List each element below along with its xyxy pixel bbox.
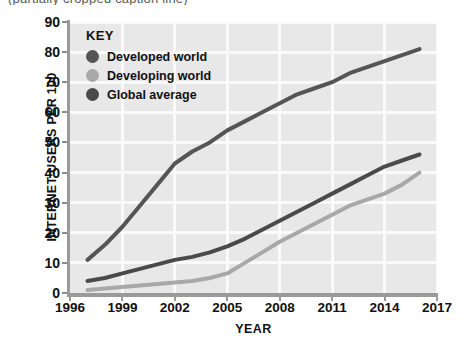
internet-users-line-chart: INTERNET USERS PER 100 01020304050607080… (0, 0, 467, 347)
legend-item-global-average: Global average (86, 85, 236, 104)
y-axis-tick-label: 90 (30, 14, 60, 30)
legend-swatch-icon (86, 69, 99, 82)
x-axis-tick-label: 2017 (422, 300, 452, 315)
y-axis-tick-label: 60 (30, 104, 60, 120)
y-axis-tick-label: 50 (30, 134, 60, 150)
series-line (87, 154, 419, 280)
legend-item-developed-world: Developed world (86, 47, 236, 66)
y-axis-tick-label: 20 (30, 225, 60, 241)
y-axis-tick-labels: 0102030405060708090 (30, 22, 60, 294)
x-axis-tick-label: 2014 (370, 300, 400, 315)
chart-legend: KEY Developed world Developing world Glo… (86, 28, 236, 104)
x-axis-tick-label: 1996 (55, 300, 85, 315)
legend-item-developing-world: Developing world (86, 66, 236, 85)
series-line (87, 173, 419, 290)
x-axis-tick-labels: 19961999200220052008201120142017 (0, 300, 467, 318)
y-axis-tick-label: 70 (30, 74, 60, 90)
x-axis-tick-label: 2002 (160, 300, 190, 315)
legend-label: Global average (107, 88, 197, 102)
y-axis-tick-label: 30 (30, 195, 60, 211)
legend-label: Developing world (107, 69, 211, 83)
legend-swatch-icon (86, 50, 99, 63)
y-axis-tick-label: 10 (30, 255, 60, 271)
x-axis-tick-label: 2011 (317, 300, 346, 315)
y-axis-tick-label: 80 (30, 44, 60, 60)
legend-title: KEY (86, 28, 236, 43)
legend-label: Developed world (107, 50, 207, 64)
x-axis-title: YEAR (70, 322, 437, 336)
x-axis-tick-label: 1999 (107, 300, 137, 315)
legend-swatch-icon (86, 88, 99, 101)
x-axis-tick-label: 2008 (265, 300, 295, 315)
x-axis-tick-label: 2005 (212, 300, 242, 315)
y-axis-tick-label: 40 (30, 165, 60, 181)
